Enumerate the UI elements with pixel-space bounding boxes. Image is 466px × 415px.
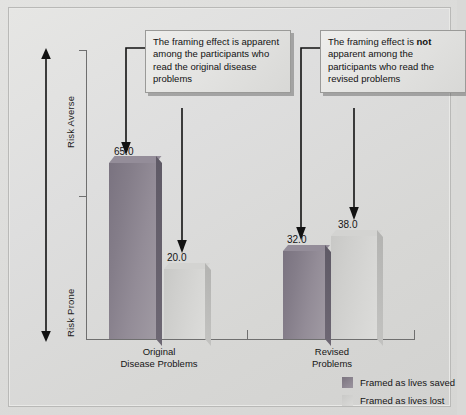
axis-label-risk-prone: Risk Prone <box>65 289 76 337</box>
legend-label-lives-lost: Framed as lives lost <box>360 395 444 406</box>
bar-front-face <box>164 269 205 339</box>
x-axis-end-tick <box>414 330 415 340</box>
category-label-revised: Revised Problems <box>277 346 387 370</box>
bar-front-face <box>283 251 325 339</box>
bar-top-face <box>331 230 382 236</box>
annotation-text-part-1: The framing effect is <box>328 36 417 47</box>
annotation-callout-left-text: The framing effect is apparent among the… <box>153 36 279 84</box>
annotation-emphasis-not: not <box>417 36 432 47</box>
category-label-line-2: Problems <box>277 358 387 370</box>
annotation-callout-left[interactable]: The framing effect is apparent among the… <box>145 30 291 93</box>
legend-item-lives-saved[interactable]: Framed as lives saved <box>342 374 455 390</box>
bar-side-face <box>205 263 211 346</box>
legend-swatch-icon-lives-saved <box>342 377 353 388</box>
y-axis-line <box>86 50 87 340</box>
legend-swatch-icon-lives-lost <box>342 395 353 406</box>
bar-top-face <box>109 156 161 163</box>
bar-front-face <box>109 163 156 339</box>
legend-label-lives-saved: Framed as lives saved <box>360 377 455 388</box>
x-axis-line <box>86 339 415 340</box>
bar-top-face <box>283 245 330 251</box>
bar-side-face <box>156 156 162 346</box>
bar-top-face <box>164 263 210 269</box>
bar-original-lives-lost[interactable] <box>164 269 205 339</box>
category-label-line-1: Revised <box>277 346 387 358</box>
annotation-callout-right[interactable]: The framing effect is not apparent among… <box>320 30 466 93</box>
category-label-line-2: Disease Problems <box>104 358 214 370</box>
bar-original-lives-saved[interactable] <box>109 163 156 339</box>
legend: Framed as lives saved Framed as lives lo… <box>342 374 455 410</box>
category-label-original: Original Disease Problems <box>104 346 214 370</box>
bar-revised-lives-lost[interactable] <box>331 236 377 339</box>
callout-left-down-arrow <box>175 108 189 254</box>
y-axis-tick-top <box>79 50 87 51</box>
axis-label-risk-averse: Risk Averse <box>65 96 76 148</box>
category-label-line-1: Original <box>104 346 214 358</box>
bar-side-face <box>377 230 383 346</box>
callout-right-down-arrow <box>347 108 361 221</box>
legend-item-lives-lost[interactable]: Framed as lives lost <box>342 392 455 408</box>
x-axis-group-separator-tick <box>247 330 248 340</box>
annotation-text-part-2: apparent among the participants who read… <box>328 48 434 84</box>
bar-front-face <box>331 236 377 339</box>
bar-revised-lives-saved[interactable] <box>283 251 325 339</box>
risk-scale-double-arrow <box>39 48 53 342</box>
y-axis-tick-middle <box>79 196 87 197</box>
figure-plate: Risk Averse Risk Prone 65.0 20.0 32.0 <box>8 7 451 407</box>
